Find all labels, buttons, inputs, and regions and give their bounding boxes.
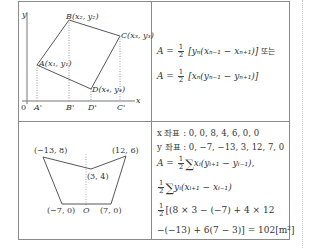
shoelace-formula-y: A = 12 [yₙ(xₙ₋₁ − xₙ₊₁)] 또는: [157, 44, 275, 59]
projection-b-label: B': [66, 104, 74, 112]
area-sum-formula-x: A = 12∑xᵢ(yᵢ₊₁ − yᵢ₋₁),: [157, 156, 254, 171]
projection-a-label: A': [34, 104, 42, 112]
fraction: 12: [178, 69, 184, 84]
origin-label: 0: [21, 104, 26, 112]
quadrilateral-abcd: [37, 20, 120, 89]
area-calculation-result: −(−13) + 6(7 − 3)] = 102[m²]: [157, 226, 294, 235]
point-c-label: C(x₃, y₃): [121, 32, 154, 40]
x-axis-label: x: [136, 97, 141, 105]
fraction: 12: [178, 44, 184, 59]
pentagon: [43, 156, 126, 204]
area-calculation-line1: 12[(8 × 3 − (−7) + 4 × 12: [157, 203, 274, 218]
point-b-label: B(x₂, y₂): [66, 13, 99, 21]
vertex-label: (−13, 8): [34, 147, 67, 155]
projection-d-label: D': [88, 104, 97, 112]
vertex-label: (7, 0): [100, 207, 122, 215]
y-coordinates-list: y 좌표 : 0, −7, −13, 3, 12, 7, 0: [157, 143, 284, 152]
area-sum-formula-y: 12∑yᵢ(xᵢ₊₁ − xᵢ₋₁): [157, 180, 232, 195]
vertex-label: (3, 4): [87, 173, 109, 181]
projection-c-label: C': [117, 104, 125, 112]
origin-o-label: O: [83, 207, 90, 215]
x-coordinates-list: x 좌표 : 0, 0, 8, 4, 6, 0, 0: [157, 129, 259, 138]
point-a-label: A(x₁, y₁): [39, 60, 72, 68]
vertex-label: (12, 6): [112, 147, 139, 155]
y-axis-label: y: [22, 11, 27, 19]
point-d-label: D(x₄, y₄): [92, 86, 125, 94]
vertex-label: (−7, 0): [47, 207, 75, 215]
shoelace-formula-x: A = 12 [xₙ(yₙ₋₁ − yₙ₊₁)]: [157, 69, 258, 84]
